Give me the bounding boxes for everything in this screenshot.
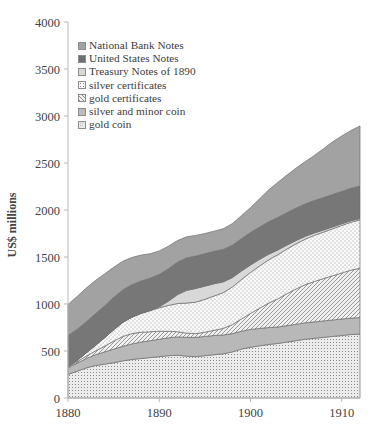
chart-canvas: 0500100015002000250030003500400018801890…	[0, 0, 392, 429]
legend-swatch-icon	[78, 55, 86, 63]
legend-item-united-states-notes[interactable]: United States Notes	[78, 52, 196, 65]
chart-legend: National Bank NotesUnited States NotesTr…	[78, 39, 196, 131]
y-tick-label: 2000	[35, 204, 60, 218]
x-tick-label: 1910	[329, 406, 354, 420]
x-tick-label: 1890	[147, 406, 172, 420]
legend-item-label: Treasury Notes of 1890	[89, 66, 196, 77]
legend-swatch-icon	[78, 121, 86, 129]
y-tick-label: 4000	[35, 16, 60, 30]
legend-item-silver-and-minor-coin[interactable]: silver and minor coin	[78, 105, 196, 118]
y-tick-label: 1500	[35, 251, 60, 265]
y-tick-label: 0	[54, 392, 60, 406]
legend-swatch-icon	[78, 81, 86, 89]
y-tick-label: 500	[41, 345, 60, 359]
legend-item-label: gold certificates	[89, 93, 161, 104]
legend-item-national-bank-notes[interactable]: National Bank Notes	[78, 39, 196, 52]
legend-item-label: National Bank Notes	[89, 40, 184, 51]
area-bands	[68, 126, 360, 398]
y-axis-title: US$ millions	[5, 192, 19, 257]
legend-swatch-icon	[78, 94, 86, 102]
legend-item-label: gold coin	[89, 119, 131, 130]
legend-swatch-icon	[78, 108, 86, 116]
legend-item-label: silver certificates	[89, 80, 166, 91]
legend-swatch-icon	[78, 42, 86, 50]
legend-item-label: United States Notes	[89, 53, 179, 64]
y-tick-label: 3500	[35, 63, 60, 77]
y-tick-label: 1000	[35, 298, 60, 312]
legend-item-label: silver and minor coin	[89, 106, 185, 117]
legend-item-treasury-notes-of-1890[interactable]: Treasury Notes of 1890	[78, 65, 196, 78]
x-tick-label: 1880	[56, 406, 81, 420]
x-tick-label: 1900	[238, 406, 263, 420]
y-tick-label: 3000	[35, 110, 60, 124]
legend-item-gold-coin[interactable]: gold coin	[78, 118, 196, 131]
legend-swatch-icon	[78, 68, 86, 76]
legend-item-silver-certificates[interactable]: silver certificates	[78, 79, 196, 92]
legend-item-gold-certificates[interactable]: gold certificates	[78, 92, 196, 105]
stacked-area-chart: 0500100015002000250030003500400018801890…	[0, 0, 392, 429]
y-tick-label: 2500	[35, 157, 60, 171]
